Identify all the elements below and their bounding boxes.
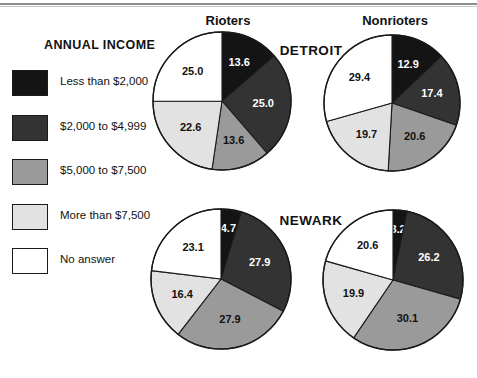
legend-label-gt7500: More than $7,500 (60, 209, 150, 221)
legend-swatch-noanswer (12, 248, 48, 274)
figure-root: ANNUAL INCOME Less than $2,000$2,000 to … (0, 0, 477, 378)
legend-item-5000to7500: $5,000 to $7,500 (10, 157, 160, 202)
pie-slice-value-label: 29.4 (349, 71, 371, 83)
legend-item-gt7500: More than $7,500 (10, 202, 160, 247)
pie-slice-value-label: 22.6 (180, 121, 201, 133)
pie-slice-value-label: 23.1 (182, 241, 203, 253)
pie-slice-value-label: 30.1 (397, 312, 418, 324)
top-divider-rule (0, 3, 477, 5)
pie-slice-value-label: 13.6 (228, 56, 249, 68)
legend-swatch-2000to4999 (12, 115, 48, 141)
pie-chart-detroit-nonrioters: 12.917.420.619.729.4 (320, 31, 464, 175)
legend-swatch-lt2000 (12, 70, 48, 96)
pie-slice-value-label: 16.4 (171, 288, 193, 300)
pie-slice-value-label: 19.9 (343, 287, 364, 299)
legend-label-noanswer: No answer (60, 253, 115, 265)
pie-slice-value-label: 4.7 (221, 222, 236, 234)
legend-title: ANNUAL INCOME (44, 38, 155, 52)
pie-chart-newark-nonrioters: 3.226.230.119.920.6 (319, 206, 467, 354)
pie-slice-value-label: 27.9 (249, 256, 270, 268)
column-header-rioters: Rioters (206, 13, 251, 28)
pie-slice-gt7500 (153, 101, 222, 169)
legend-item-noanswer: No answer (10, 246, 160, 291)
legend-item-lt2000: Less than $2,000 (10, 68, 160, 113)
pie-slice-value-label: 20.6 (404, 130, 425, 142)
legend-swatch-gt7500 (12, 204, 48, 230)
legend-label-5000to7500: $5,000 to $7,500 (60, 164, 146, 176)
pie-chart-newark-rioters: 4.727.927.916.423.1 (147, 205, 295, 353)
pie-slice-value-label: 26.2 (418, 251, 439, 263)
legend: Less than $2,000$2,000 to $4,999$5,000 t… (10, 68, 160, 291)
pie-slice-value-label: 25.0 (253, 97, 274, 109)
pie-slice-value-label: 27.9 (219, 313, 240, 325)
legend-item-2000to4999: $2,000 to $4,999 (10, 113, 160, 158)
pie-slice-value-label: 12.9 (397, 58, 418, 70)
pie-chart-detroit-rioters: 13.625.013.622.625.0 (149, 28, 295, 174)
legend-label-2000to4999: $2,000 to $4,999 (60, 120, 146, 132)
pie-slice-value-label: 19.7 (356, 128, 377, 140)
column-header-nonrioters: Nonrioters (362, 13, 428, 28)
pie-slice-value-label: 13.6 (223, 134, 244, 146)
pie-slice-value-label: 25.0 (182, 65, 203, 77)
pie-slice-value-label: 20.6 (357, 239, 378, 251)
legend-swatch-5000to7500 (12, 159, 48, 185)
legend-label-lt2000: Less than $2,000 (60, 75, 148, 87)
pie-slice-value-label: 17.4 (421, 87, 443, 99)
